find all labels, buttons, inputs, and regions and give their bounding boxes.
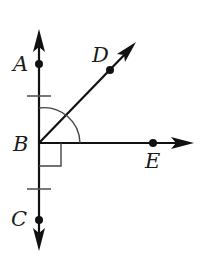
label-c: C — [11, 207, 27, 231]
point-c — [35, 216, 43, 224]
label-b: B — [12, 132, 28, 156]
point-a — [35, 60, 43, 68]
geometry-diagram: A D B E C — [0, 0, 206, 264]
label-d: D — [91, 43, 109, 67]
label-e: E — [144, 149, 160, 173]
point-e — [149, 139, 157, 147]
point-d — [106, 66, 114, 74]
ray-bd — [39, 49, 130, 143]
right-angle-marker — [39, 143, 61, 166]
label-a: A — [11, 52, 28, 76]
